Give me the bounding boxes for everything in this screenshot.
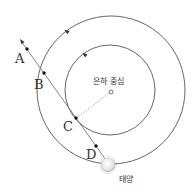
point-a bbox=[25, 47, 28, 50]
galactic-center-label: 은하 중심 bbox=[93, 76, 124, 86]
point-b bbox=[42, 71, 45, 74]
galactic-center-point bbox=[109, 90, 113, 94]
galaxy-rotation-diagram: 은하 중심 A B C D 태양 bbox=[0, 0, 195, 192]
line-of-sight-arrowhead-icon bbox=[20, 39, 25, 44]
line-of-sight bbox=[21, 41, 106, 160]
label-b: B bbox=[34, 77, 44, 92]
label-c: C bbox=[63, 119, 73, 134]
label-d: D bbox=[86, 147, 96, 162]
point-c bbox=[74, 116, 77, 119]
sun-label: 태양 bbox=[119, 175, 134, 184]
sun-icon bbox=[100, 157, 117, 174]
radius-to-c bbox=[76, 92, 111, 118]
label-a: A bbox=[14, 51, 25, 66]
